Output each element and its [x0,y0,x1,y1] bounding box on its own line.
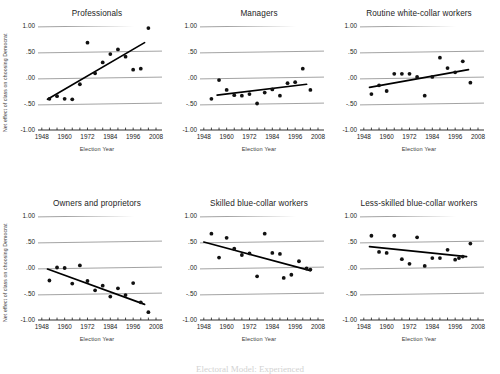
data-point [255,274,259,278]
x-axis-tick-label: 1996 [121,133,145,140]
panel-title: Routine white-collar workers [360,9,478,18]
y-axis-tick-label: .50 [328,238,357,245]
data-point [385,251,389,255]
data-point [48,97,52,101]
data-point [78,264,82,268]
data-point [255,102,259,106]
data-point [457,256,461,260]
gridline [360,241,484,243]
figure-panel-grid: Professionals1.00.50.00-.50-1.0019481960… [0,0,500,374]
data-point [453,258,457,262]
trend-line [48,269,145,304]
data-point [278,252,282,256]
data-point [468,81,472,85]
x-axis-tick-label: 1972 [237,323,261,330]
x-axis-tick-label: 1984 [260,133,284,140]
gridline [200,241,324,243]
data-point [461,255,465,259]
data-point [78,82,82,86]
data-point [377,250,381,254]
x-axis-tick-label: 1996 [283,323,307,330]
x-axis-tick-label: 1960 [215,133,239,140]
data-point [248,92,252,96]
data-point [385,89,389,93]
data-point [392,234,396,238]
data-point [124,55,128,59]
x-axis-tick-label: 2008 [144,133,168,140]
panel-title: Managers [200,9,318,18]
trend-line [370,247,467,257]
gridline [200,51,324,53]
data-point [232,247,236,251]
chart-panel: Less-skilled blue-collar workers1.00.50.… [360,216,478,354]
x-axis-label: Election Year [200,336,318,342]
data-point [131,281,135,285]
gridline [360,26,484,27]
data-point [430,75,434,79]
data-point [146,26,150,30]
data-point [146,310,150,314]
x-axis-tick-label: 1960 [215,323,239,330]
y-axis-tick-label: .00 [328,264,357,271]
trend-line [217,84,306,95]
data-point [400,257,404,261]
x-axis-tick-label: 1996 [121,323,145,330]
data-point [70,97,74,101]
gridline [38,51,162,53]
data-point [263,232,267,236]
data-point [225,236,229,240]
x-axis-tick-label: 2008 [466,323,490,330]
data-point [240,94,244,98]
gridline [200,103,324,105]
data-point [232,93,236,97]
data-point [446,66,450,70]
data-point [438,256,442,260]
gridline [360,293,484,295]
x-axis-tick-label: 1972 [237,133,261,140]
data-point [217,78,221,82]
y-axis-tick-label: 1.00 [168,212,197,219]
x-axis-tick-label: 1984 [420,323,444,330]
x-axis-tick-label: 1996 [443,133,467,140]
plot-area [200,26,326,142]
data-point [453,70,457,74]
data-point [63,97,67,101]
data-point [415,75,419,79]
data-point [278,94,282,98]
data-point [210,232,214,236]
plot-area [38,26,164,142]
data-point [289,273,293,277]
data-point [225,88,229,92]
data-point [63,266,67,270]
y-axis-tick-label: -.50 [168,290,197,297]
data-point [293,80,297,84]
gridline [38,216,162,217]
data-point [282,276,286,280]
y-axis-tick-label: -.50 [168,100,197,107]
y-axis-tick-label: -1.00 [328,126,357,133]
x-axis-tick-label: 1948 [30,323,54,330]
data-point [308,88,312,92]
data-point [377,83,381,87]
y-axis-tick-label: 1.00 [6,212,35,219]
x-axis-label: Election Year [200,146,318,152]
x-axis-label: Election Year [360,336,478,342]
gridline [200,26,324,27]
x-axis-tick-label: 1984 [260,323,284,330]
data-point [270,251,274,255]
data-point [248,252,252,256]
data-point [408,262,412,266]
data-point [108,52,112,56]
data-point [392,72,396,76]
x-axis-tick-label: 1960 [53,133,77,140]
gridline [38,26,162,27]
data-point [217,256,221,260]
data-point [423,94,427,98]
chart-panel: Owners and proprietors1.00.50.00-.50-1.0… [38,216,156,354]
data-point [93,71,97,75]
y-axis-tick-label: -.50 [328,290,357,297]
data-point [270,88,274,92]
data-point [55,94,59,98]
data-point [116,48,120,52]
gridline [200,216,324,217]
